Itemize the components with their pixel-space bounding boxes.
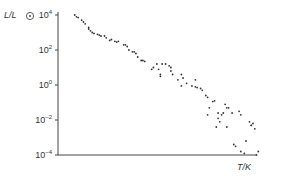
data-point	[111, 39, 113, 41]
data-point	[144, 61, 146, 63]
data-point	[228, 107, 230, 109]
data-point	[90, 30, 92, 32]
scatter-chart: 10410210010−210−4 L/L T/K	[0, 0, 289, 179]
data-point	[238, 110, 240, 112]
data-point	[135, 53, 137, 55]
data-point	[76, 16, 78, 18]
data-point	[240, 151, 242, 153]
y-tick-label: 100	[39, 79, 53, 90]
data-point	[132, 51, 134, 53]
data-point	[191, 85, 193, 87]
data-point	[123, 44, 125, 46]
data-point	[77, 17, 79, 19]
data-point	[118, 40, 120, 42]
data-point	[208, 107, 210, 109]
data-point	[249, 121, 251, 123]
data-point	[243, 152, 245, 154]
data-point	[195, 86, 197, 88]
data-point	[170, 70, 172, 72]
data-point	[181, 74, 183, 76]
data-point	[181, 85, 183, 87]
data-point	[114, 40, 116, 42]
data-point	[219, 121, 221, 123]
y-tick-label: 10−4	[35, 149, 53, 160]
data-point	[201, 89, 203, 91]
data-point	[215, 126, 217, 128]
data-point	[133, 51, 135, 53]
data-point	[142, 60, 144, 62]
data-point	[226, 126, 228, 128]
data-point	[250, 124, 252, 126]
y-tick-label: 10−2	[35, 114, 53, 125]
data-point	[109, 40, 111, 42]
data-point	[224, 103, 226, 105]
data-point	[235, 145, 237, 147]
data-point	[161, 63, 163, 65]
data-point	[196, 87, 198, 89]
data-point	[195, 79, 197, 81]
data-point	[168, 65, 170, 67]
data-point	[226, 107, 228, 109]
data-point	[97, 33, 99, 35]
y-tick-label: 102	[39, 44, 53, 55]
data-point	[222, 112, 224, 114]
data-point	[98, 34, 100, 36]
data-point	[205, 95, 207, 97]
data-point	[128, 49, 130, 51]
data-point	[151, 68, 153, 70]
data-point	[217, 112, 219, 114]
data-point	[125, 44, 127, 46]
data-point	[177, 79, 179, 81]
data-point	[126, 46, 128, 48]
data-point	[156, 63, 158, 65]
data-point	[165, 63, 167, 65]
data-point	[158, 68, 160, 70]
y-tick-label: 104	[39, 9, 53, 20]
data-points	[74, 14, 259, 156]
data-point	[212, 101, 214, 103]
data-point	[91, 32, 93, 34]
data-point	[182, 77, 184, 79]
data-point	[172, 74, 174, 76]
data-point	[231, 112, 233, 114]
data-point	[256, 154, 258, 156]
data-point	[257, 151, 259, 153]
x-axis-label: T/K	[237, 162, 252, 172]
sun-symbol-icon	[26, 12, 33, 19]
data-point	[186, 82, 188, 84]
data-point	[200, 88, 202, 90]
data-point	[221, 114, 223, 116]
data-point	[74, 14, 76, 16]
y-axis-label: L/L	[4, 10, 17, 20]
data-point	[83, 21, 85, 23]
data-point	[104, 35, 106, 37]
data-point	[240, 114, 242, 116]
data-point	[137, 56, 139, 58]
data-point	[84, 23, 86, 25]
data-point	[100, 35, 102, 37]
data-point	[105, 37, 107, 39]
data-point	[254, 128, 256, 130]
data-point	[245, 140, 247, 142]
data-point	[88, 28, 90, 30]
data-point	[233, 144, 235, 146]
data-point	[116, 41, 118, 43]
data-point	[140, 60, 142, 62]
data-point	[93, 33, 95, 35]
data-point	[170, 67, 172, 69]
data-point	[153, 67, 155, 69]
data-point	[217, 117, 219, 119]
data-point	[207, 96, 209, 98]
data-point	[252, 123, 254, 125]
data-point	[160, 74, 162, 76]
data-point	[160, 75, 162, 77]
data-point	[88, 26, 90, 28]
data-point	[207, 114, 209, 116]
data-point	[81, 19, 83, 21]
y-ticks: 10410210010−210−4	[35, 9, 58, 160]
data-point	[214, 100, 216, 102]
